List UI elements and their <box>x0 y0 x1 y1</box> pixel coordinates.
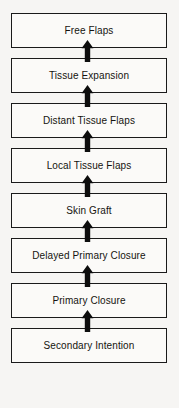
up-arrow-icon <box>81 175 94 197</box>
ladder-step-label: Distant Tissue Flaps <box>43 115 135 126</box>
up-arrow-icon <box>81 310 94 332</box>
ladder-step-label: Primary Closure <box>52 295 125 306</box>
ladder-steps-container: Free Flaps Tissue Expansion Distant Tiss… <box>0 0 179 408</box>
ladder-step-label: Delayed Primary Closure <box>32 250 145 261</box>
up-arrow-icon <box>81 85 94 107</box>
up-arrow-icon <box>81 265 94 287</box>
ladder-step-label: Tissue Expansion <box>49 70 129 81</box>
ladder-step-label: Skin Graft <box>66 205 111 216</box>
up-arrow-icon <box>81 130 94 152</box>
ladder-step-label: Local Tissue Flaps <box>47 160 132 171</box>
ladder-step-label: Free Flaps <box>65 25 114 36</box>
ladder-step-label: Secondary Intention <box>44 340 135 351</box>
reconstructive-ladder-diagram: Free Flaps Tissue Expansion Distant Tiss… <box>0 0 179 408</box>
up-arrow-icon <box>81 220 94 242</box>
ladder-step-8: Secondary Intention <box>11 328 167 363</box>
up-arrow-icon <box>81 40 94 62</box>
